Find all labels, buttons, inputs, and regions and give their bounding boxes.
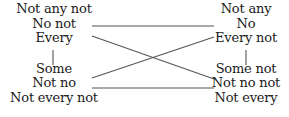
spacer: [2, 46, 106, 62]
left-top-term-2: No not: [2, 17, 106, 32]
spacer: [194, 46, 289, 62]
left-bottom-term-3: Not every not: [2, 91, 106, 106]
right-top-term-1: Not any: [194, 2, 289, 17]
left-bottom-term-1: Some: [2, 62, 106, 77]
left-top-term-1: Not any not: [2, 2, 106, 17]
right-bottom-term-1: Some not: [194, 62, 289, 77]
right-bottom-term-3: Not every: [194, 91, 289, 106]
left-bottom-term-2: Not no: [2, 76, 106, 91]
right-top-term-3: Every not: [194, 31, 289, 46]
right-bottom-term-2: Not no not: [194, 76, 289, 91]
right-top-term-2: No: [194, 17, 289, 32]
left-column: Not any not No not Every Some Not no Not…: [2, 2, 106, 105]
left-top-term-3: Every: [2, 31, 106, 46]
right-column: Not any No Every not Some not Not no not…: [194, 2, 289, 105]
